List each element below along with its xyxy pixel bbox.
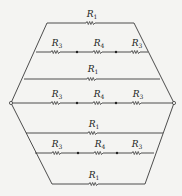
circuit-svg xyxy=(0,0,182,196)
branch-r3-r4-r3-lower xyxy=(35,152,154,155)
resistor-r1 xyxy=(87,78,96,81)
junction-dot xyxy=(77,152,79,154)
branch-r1-second xyxy=(24,78,160,81)
branch-r3-r4-r3-middle xyxy=(11,102,174,105)
label-r4: R4 xyxy=(94,90,105,100)
label-r4: R4 xyxy=(94,39,105,49)
junction-dot xyxy=(115,51,117,53)
branch-r1-third xyxy=(26,132,163,135)
label-r3: R3 xyxy=(132,39,143,49)
label-r1: R1 xyxy=(87,10,98,20)
resistor-r3 xyxy=(51,51,60,54)
resistor-r1 xyxy=(88,132,97,135)
resistor-r4 xyxy=(93,51,102,54)
resistor-r1 xyxy=(89,183,98,186)
label-r1: R1 xyxy=(89,120,100,130)
resistor-r1 xyxy=(86,22,95,25)
branch-r1-bottom xyxy=(52,183,145,186)
resistor-r4 xyxy=(94,152,103,155)
branch-r1-top xyxy=(47,22,134,25)
label-r3: R3 xyxy=(52,39,63,49)
resistor-r3 xyxy=(132,102,141,105)
label-r3: R3 xyxy=(52,140,63,150)
resistor-r3 xyxy=(131,51,140,54)
label-r3: R3 xyxy=(133,90,144,100)
branch-r3-r4-r3-upper xyxy=(36,51,148,54)
junction-dot xyxy=(116,152,118,154)
right-lower-wire xyxy=(145,103,174,184)
left-upper-wire xyxy=(11,23,47,103)
resistor-r3 xyxy=(51,102,60,105)
label-r3: R3 xyxy=(132,140,143,150)
left-lower-wire xyxy=(11,103,52,184)
right-terminal-node xyxy=(172,101,175,104)
label-r4: R4 xyxy=(95,140,106,150)
resistor-r3 xyxy=(52,152,61,155)
left-terminal-node xyxy=(9,101,12,104)
label-r3: R3 xyxy=(52,90,63,100)
circuit-diagram: R1 R3 R4 R3 R1 R3 R4 R3 R1 R3 R4 R3 R1 xyxy=(0,0,182,196)
resistor-r4 xyxy=(93,102,102,105)
junction-dot xyxy=(115,102,117,104)
label-r1: R1 xyxy=(89,171,100,181)
junction-dot xyxy=(76,102,78,104)
junction-dot xyxy=(76,51,78,53)
label-r1: R1 xyxy=(88,65,99,75)
resistor-r3 xyxy=(132,152,141,155)
